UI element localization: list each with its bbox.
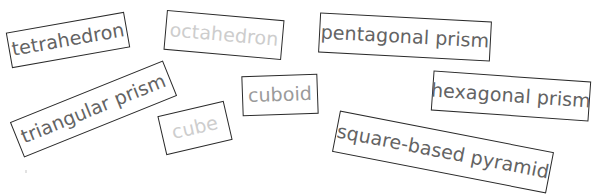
card-triangular-prism[interactable]: triangular prism	[9, 60, 176, 157]
card-label: cuboid	[248, 83, 313, 106]
card-label: cube	[170, 113, 220, 144]
card-label: hexagonal prism	[430, 80, 591, 112]
card-hexagonal-prism[interactable]: hexagonal prism	[431, 71, 591, 122]
scan-speck	[25, 170, 27, 173]
card-octahedron[interactable]: octahedron	[163, 10, 284, 60]
card-cube[interactable]: cube	[157, 101, 232, 155]
card-square-based-pyramid[interactable]: square-based pyramid	[332, 111, 554, 194]
card-label: square-based pyramid	[335, 121, 551, 183]
card-cuboid[interactable]: cuboid	[241, 74, 318, 117]
card-label: pentagonal prism	[320, 22, 490, 52]
card-pentagonal-prism[interactable]: pentagonal prism	[318, 13, 492, 62]
card-label: tetrahedron	[10, 20, 126, 60]
card-label: triangular prism	[18, 70, 169, 147]
card-label: octahedron	[169, 20, 279, 50]
card-tetrahedron[interactable]: tetrahedron	[6, 12, 130, 68]
